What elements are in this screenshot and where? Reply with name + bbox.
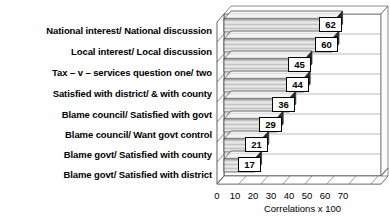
plot-area: 62 60 45 44 36 29 21 17 <box>216 0 389 190</box>
category-label: Local interest/ Local discussion <box>0 46 212 57</box>
category-label: Blame govt/ Satisfied with district <box>0 169 212 180</box>
bar-chart: National interest/ National discussion L… <box>0 0 389 223</box>
x-axis-title: Correlations x 100 <box>216 203 389 215</box>
category-label: Blame council/ Satisfied with govt <box>0 109 212 120</box>
chart-right-face <box>381 6 388 176</box>
x-axis: 0 10 20 30 40 50 60 70 <box>216 190 389 203</box>
category-label: Blame govt/ Satisfied with county <box>0 149 212 160</box>
x-tick-label: 0 <box>208 190 226 202</box>
bar-value-label: 21 <box>245 137 268 152</box>
x-tick-label: 10 <box>226 190 244 202</box>
category-label: Satisfied with district/ & with county <box>0 88 212 99</box>
bar-value-label: 17 <box>238 157 261 172</box>
category-label: National interest/ National discussion <box>0 25 212 36</box>
category-axis: National interest/ National discussion L… <box>0 0 216 188</box>
category-label: Tax – v – services question one/ two <box>0 67 212 78</box>
x-tick-label: 50 <box>298 190 316 202</box>
bar-value-label: 36 <box>272 97 295 112</box>
x-tick-label: 70 <box>334 190 352 202</box>
chart-left-wall <box>217 14 224 184</box>
bar-value-label: 45 <box>288 57 311 72</box>
x-tick-label: 40 <box>280 190 298 202</box>
category-label: Blame council/ Want govt control <box>0 129 212 140</box>
bar-value-label: 60 <box>315 37 338 52</box>
bar-value-label: 44 <box>286 77 309 92</box>
bar-value-label: 62 <box>319 17 342 32</box>
x-tick-label: 20 <box>244 190 262 202</box>
x-tick-label: 30 <box>262 190 280 202</box>
x-tick-label: 60 <box>316 190 334 202</box>
bar-value-label: 29 <box>259 117 282 132</box>
